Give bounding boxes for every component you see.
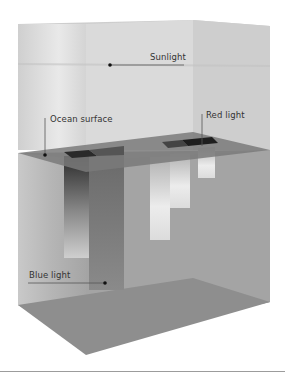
- air-volume: [18, 20, 270, 150]
- bottom-divider: [0, 371, 285, 372]
- red-light-label: Red light: [206, 110, 245, 120]
- blue-light-label: Blue light: [29, 270, 70, 280]
- sunlight-label: Sunlight: [150, 52, 186, 62]
- ocean-surface-label: Ocean surface: [50, 114, 113, 124]
- ocean-light-diagram: [0, 0, 285, 380]
